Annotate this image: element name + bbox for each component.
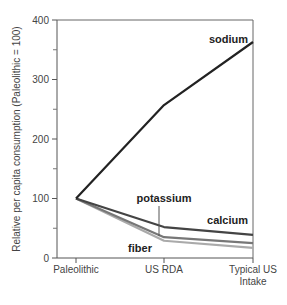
y-tick-label: 300	[32, 74, 49, 85]
y-tick-label: 0	[43, 253, 49, 264]
x-tick-label: US RDA	[145, 264, 183, 275]
y-axis-title: Relative per capita consumption (Paleoli…	[11, 26, 22, 251]
series-label-potassium: potassium	[136, 192, 191, 204]
x-tick-label: Paleolithic	[53, 264, 99, 275]
series-label-calcium: calcium	[207, 214, 248, 226]
series-label-fiber: fiber	[128, 242, 153, 254]
series-label-sodium: sodium	[209, 33, 248, 45]
series-line-sodium	[76, 42, 253, 198]
line-chart: 0100200300400PaleolithicUS RDATypical US…	[0, 0, 287, 305]
y-tick-label: 400	[32, 15, 49, 26]
x-tick-label: Typical US	[229, 264, 277, 275]
y-tick-label: 100	[32, 193, 49, 204]
y-tick-label: 200	[32, 134, 49, 145]
x-tick-label: Intake	[239, 276, 267, 287]
